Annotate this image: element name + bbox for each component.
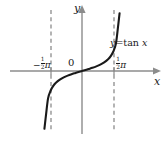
x-tick-label-left: − 1 2 π xyxy=(33,57,51,70)
curve-equation-label: y=tan x xyxy=(110,38,147,48)
y-axis-label: y xyxy=(74,3,80,14)
curve-equation-operator: =tan xyxy=(115,37,142,48)
x-axis-label: x xyxy=(154,76,160,87)
tick-left-pi-symbol: π xyxy=(45,60,51,70)
tangent-graph-figure: y x 0 y=tan x − 1 2 π 1 2 π xyxy=(0,0,167,142)
curve-equation-x: x xyxy=(142,37,147,48)
x-axis-arrowhead xyxy=(153,67,161,74)
plot-canvas xyxy=(0,0,167,142)
tick-left-minus-sign: − xyxy=(33,60,41,70)
x-tick-label-right: 1 2 π xyxy=(116,57,126,70)
tick-right-pi-symbol: π xyxy=(120,60,126,70)
origin-label: 0 xyxy=(68,58,74,68)
